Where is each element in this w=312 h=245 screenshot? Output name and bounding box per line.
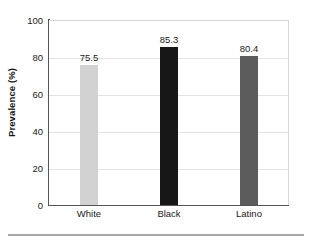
y-tick-label: 80 xyxy=(32,52,43,63)
bar-slot: 85.3 xyxy=(129,21,209,205)
bar-black[interactable] xyxy=(160,47,178,205)
plot-area: 75.585.380.4 xyxy=(49,20,289,205)
x-tick-label-white: White xyxy=(77,208,101,219)
x-axis-tick-labels: WhiteBlackLatino xyxy=(49,208,289,226)
bar-value-label: 80.4 xyxy=(240,43,259,54)
bar-slot: 75.5 xyxy=(49,21,129,205)
bar-white[interactable] xyxy=(80,65,98,205)
y-tick-label: 40 xyxy=(32,126,43,137)
y-axis-tick-labels: 020406080100 xyxy=(20,0,46,245)
x-tick-label-black: Black xyxy=(157,208,180,219)
y-axis-title-text: Prevalence (%) xyxy=(6,68,17,137)
footer-rule xyxy=(8,234,304,236)
y-tick-label: 0 xyxy=(38,200,43,211)
y-tick-label: 100 xyxy=(27,15,43,26)
x-tick-label-latino: Latino xyxy=(236,208,262,219)
bar-slot: 80.4 xyxy=(209,21,289,205)
bar-chart-figure: Prevalence (%) 020406080100 75.585.380.4… xyxy=(0,0,312,245)
y-tick-label: 20 xyxy=(32,163,43,174)
y-tick-label: 60 xyxy=(32,89,43,100)
bar-value-label: 85.3 xyxy=(160,34,179,45)
y-axis-title: Prevalence (%) xyxy=(2,0,20,205)
bar-latino[interactable] xyxy=(240,56,258,205)
bar-value-label: 75.5 xyxy=(80,52,99,63)
